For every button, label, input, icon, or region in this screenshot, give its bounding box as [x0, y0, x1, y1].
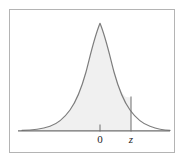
shaded-area-under-curve — [22, 23, 131, 130]
x-axis-label-z: z — [123, 134, 139, 145]
figure-root: 0 z — [0, 0, 188, 163]
x-axis-label-zero: 0 — [92, 134, 108, 145]
